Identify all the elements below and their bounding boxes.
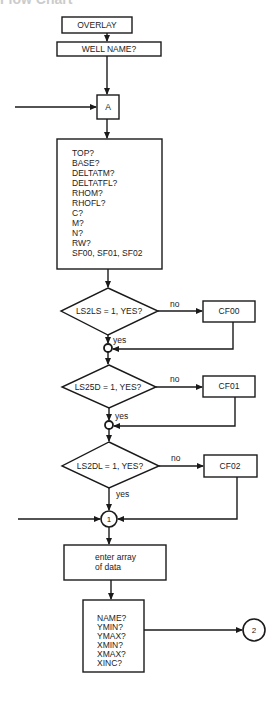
input-m: M? xyxy=(72,218,84,228)
input-rw: RW? xyxy=(72,238,91,248)
cf00-label: CF00 xyxy=(219,306,240,316)
input-deltatm: DELTATM? xyxy=(72,168,115,178)
junction-2 xyxy=(105,421,113,429)
param-xinc: XINC? xyxy=(97,658,122,668)
connector-1-label: 1 xyxy=(107,515,112,524)
connector-2-label: 2 xyxy=(252,626,257,635)
input-c: C? xyxy=(72,208,83,218)
input-rhom: RHOM? xyxy=(72,188,103,198)
input-n: N? xyxy=(72,228,83,238)
input-deltatfl: DELTATFL? xyxy=(72,178,118,188)
decision-3-yes: yes xyxy=(116,489,129,499)
well-name-label: WELL NAME? xyxy=(82,44,137,54)
enter-array-line-2: of data xyxy=(95,562,121,572)
decision-3-question: LS2DL = 1, YES? xyxy=(77,461,144,471)
overlay-label: OVERLAY xyxy=(77,20,117,30)
decision-1-yes: yes xyxy=(113,335,126,345)
cf01-label: CF01 xyxy=(219,381,240,391)
flowchart-diagram: OVERLAY WELL NAME? A TOP? BASE? DELTATM?… xyxy=(0,0,275,706)
decision-1-no: no xyxy=(170,299,180,309)
enter-array-line-1: enter array xyxy=(95,552,137,562)
junction-1 xyxy=(104,344,112,352)
cf02-label: CF02 xyxy=(220,461,241,471)
decision-3-no: no xyxy=(171,453,181,463)
decision-2-yes: yes xyxy=(115,411,128,421)
decision-2-question: LS25D = 1, YES? xyxy=(75,382,142,392)
input-top: TOP? xyxy=(72,148,94,158)
decision-2-no: no xyxy=(170,374,180,384)
input-sf: SF00, SF01, SF02 xyxy=(72,248,143,258)
input-base: BASE? xyxy=(72,158,100,168)
decision-1-question: LS2LS = 1, YES? xyxy=(76,306,143,316)
input-rhofl: RHOFL? xyxy=(72,198,106,208)
connector-a-label: A xyxy=(105,102,111,112)
